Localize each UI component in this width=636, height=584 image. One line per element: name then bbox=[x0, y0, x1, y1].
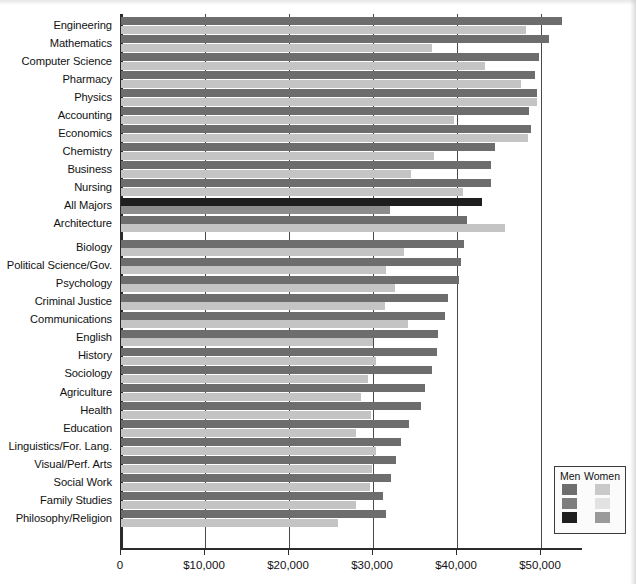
category-label: Political Science/Gov. bbox=[7, 260, 112, 271]
bar-women bbox=[121, 188, 463, 196]
bar-men bbox=[121, 510, 386, 518]
legend-swatch-men bbox=[562, 498, 577, 509]
category-label: Physics bbox=[74, 92, 112, 103]
bar-women bbox=[121, 338, 373, 346]
bar-men bbox=[121, 125, 531, 133]
bar-women bbox=[121, 465, 372, 473]
bar-men bbox=[121, 240, 464, 248]
axis-tick bbox=[372, 548, 373, 555]
bar-women bbox=[121, 134, 528, 142]
bar-men bbox=[121, 143, 495, 151]
chart-legend: Men Women bbox=[554, 466, 626, 534]
bar-men bbox=[121, 438, 401, 446]
category-label: Pharmacy bbox=[62, 74, 112, 85]
category-label: Criminal Justice bbox=[35, 296, 112, 307]
bar-men bbox=[121, 53, 539, 61]
axis-tick bbox=[204, 548, 205, 555]
category-label: Visual/Perf. Arts bbox=[34, 459, 112, 470]
category-label: Mathematics bbox=[50, 38, 112, 49]
bar-women bbox=[121, 519, 338, 527]
bar-women bbox=[121, 411, 371, 419]
bar-men bbox=[121, 71, 535, 79]
axis-tick-label: $10,000 bbox=[183, 559, 225, 571]
category-label: Philosophy/Religion bbox=[16, 513, 112, 524]
category-label: Nursing bbox=[74, 182, 112, 193]
bar-men bbox=[121, 258, 461, 266]
x-axis-line bbox=[120, 548, 582, 550]
bar-women bbox=[121, 44, 432, 52]
category-label: Engineering bbox=[53, 20, 112, 31]
axis-tick bbox=[288, 548, 289, 555]
bar-men bbox=[121, 474, 391, 482]
bar-women bbox=[121, 206, 390, 214]
axis-tick bbox=[120, 548, 121, 555]
category-axis-labels: EngineeringMathematicsComputer SciencePh… bbox=[0, 14, 116, 548]
legend-swatch-women bbox=[595, 512, 610, 523]
category-label: Chemistry bbox=[63, 146, 112, 157]
category-label: Agriculture bbox=[60, 387, 112, 398]
bar-women bbox=[121, 116, 454, 124]
legend-rows bbox=[560, 484, 620, 523]
bar-women bbox=[121, 170, 411, 178]
category-label: Sociology bbox=[64, 368, 112, 379]
bar-women bbox=[121, 248, 404, 256]
bar-women bbox=[121, 284, 395, 292]
bar-women bbox=[121, 320, 408, 328]
bar-women bbox=[121, 447, 376, 455]
bar-women bbox=[121, 375, 368, 383]
category-label: History bbox=[78, 350, 112, 361]
plot-inner bbox=[121, 14, 582, 548]
bar-women bbox=[121, 501, 356, 509]
category-label: Psychology bbox=[56, 278, 112, 289]
bar-women bbox=[121, 357, 376, 365]
bar-women bbox=[121, 266, 386, 274]
bar-women bbox=[121, 98, 537, 106]
category-label: Communications bbox=[30, 314, 112, 325]
axis-tick-label: 0 bbox=[117, 559, 123, 571]
bar-men bbox=[121, 17, 562, 25]
bar-women bbox=[121, 429, 356, 437]
bar-men bbox=[121, 348, 437, 356]
legend-row bbox=[560, 498, 620, 509]
bar-men bbox=[121, 216, 467, 224]
axis-tick-label: $20,000 bbox=[267, 559, 309, 571]
bar-women bbox=[121, 152, 434, 160]
legend-header-women: Women bbox=[584, 470, 620, 482]
category-label: Family Studies bbox=[40, 495, 112, 506]
legend-row bbox=[560, 512, 620, 523]
legend-swatch-women bbox=[595, 498, 610, 509]
category-label: Linguistics/For. Lang. bbox=[8, 441, 112, 452]
page-edge-right-shading bbox=[630, 0, 636, 584]
category-label: Accounting bbox=[58, 110, 112, 121]
category-label: Architecture bbox=[54, 218, 113, 229]
plot-area bbox=[120, 14, 582, 548]
bar-men bbox=[121, 294, 448, 302]
bar-men bbox=[121, 179, 491, 187]
bar-men bbox=[121, 492, 383, 500]
axis-tick bbox=[456, 548, 457, 555]
category-label: Economics bbox=[58, 128, 112, 139]
category-label: Computer Science bbox=[22, 56, 112, 67]
bar-women bbox=[121, 26, 526, 34]
category-label: Biology bbox=[76, 242, 112, 253]
bar-women bbox=[121, 483, 370, 491]
bar-men bbox=[121, 198, 482, 206]
category-label: All Majors bbox=[64, 200, 112, 211]
category-label: Education bbox=[63, 423, 112, 434]
bar-men bbox=[121, 107, 529, 115]
category-label: English bbox=[76, 332, 112, 343]
bar-men bbox=[121, 402, 421, 410]
bar-women bbox=[121, 62, 485, 70]
legend-swatch-men bbox=[562, 512, 577, 523]
bar-men bbox=[121, 384, 425, 392]
legend-swatch-men bbox=[562, 484, 577, 495]
bar-men bbox=[121, 420, 409, 428]
axis-tick-label: $50,000 bbox=[519, 559, 561, 571]
page-edge-top-shading bbox=[0, 0, 636, 5]
axis-tick bbox=[540, 548, 541, 555]
gridline bbox=[541, 14, 542, 548]
bar-women bbox=[121, 302, 385, 310]
bar-men bbox=[121, 89, 537, 97]
bar-women bbox=[121, 80, 521, 88]
category-label: Business bbox=[67, 164, 112, 175]
